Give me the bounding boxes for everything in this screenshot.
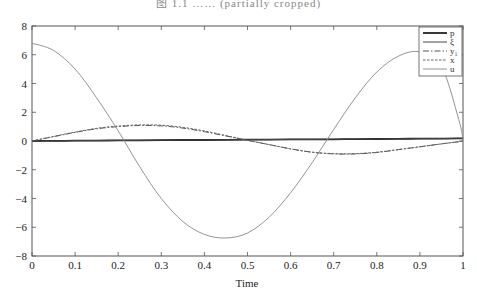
x-tick-label: 0.6 <box>284 259 298 271</box>
x-tick-label: 0.1 <box>68 259 82 271</box>
x-tick-label: 0.4 <box>198 259 212 271</box>
x-tick-label: 0.8 <box>370 259 384 271</box>
y-tick-label: 4 <box>22 78 28 90</box>
y-tick-label: 2 <box>22 106 28 118</box>
legend: pξy₁xu <box>419 27 462 76</box>
x-tick-label: 0.3 <box>154 259 168 271</box>
legend-label: u <box>450 64 455 74</box>
y-tick-label: 0 <box>22 135 28 147</box>
y-tick-label: −2 <box>15 164 27 176</box>
x-tick-label: 1 <box>460 259 466 271</box>
x-tick-label: 0.7 <box>327 259 341 271</box>
x-axis-label: Time <box>236 277 259 289</box>
y-tick-label: 6 <box>22 49 28 61</box>
y-tick-label: −4 <box>15 193 27 205</box>
y-tick-label: 8 <box>22 20 28 32</box>
x-tick-label: 0.5 <box>241 259 255 271</box>
y-tick-label: −8 <box>15 250 27 262</box>
x-tick-label: 0 <box>29 259 35 271</box>
x-tick-label: 0.2 <box>111 259 125 271</box>
y-tick-label: −6 <box>15 221 27 233</box>
series-lines <box>32 43 463 238</box>
line-chart: 00.10.20.30.40.50.60.70.80.9186420−2−4−6… <box>0 0 477 299</box>
axis-ticks: 00.10.20.30.40.50.60.70.80.9186420−2−4−6… <box>15 20 465 271</box>
x-tick-label: 0.9 <box>413 259 427 271</box>
